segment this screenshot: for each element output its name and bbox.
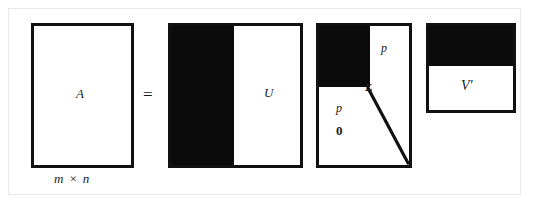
svd-diagram-figure: A m × n = U p p 0 Σ V′ — [0, 0, 542, 207]
matrix-u-box — [168, 23, 303, 168]
sigma-label-p-top: p — [381, 42, 387, 54]
matrix-sigma-label: Σ — [365, 82, 372, 93]
matrix-a-dimension-label: m × n — [54, 172, 90, 185]
equals-sign: = — [143, 86, 153, 103]
matrix-v-label: V′ — [461, 79, 473, 93]
matrix-u-label: U — [264, 86, 273, 99]
matrix-a-label: A — [76, 87, 84, 100]
sigma-diagonal-line-icon — [319, 26, 409, 165]
sigma-label-zero: 0 — [336, 124, 343, 137]
sigma-label-p-left: p — [336, 102, 342, 114]
matrix-v-black-region — [429, 26, 513, 66]
matrix-v-box — [426, 23, 516, 113]
matrix-u-black-region — [171, 26, 234, 165]
matrix-sigma-box — [316, 23, 412, 168]
